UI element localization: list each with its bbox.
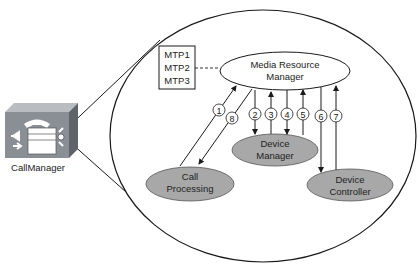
svg-text:5: 5 [300,110,305,120]
device-controller-label-line1: Device [335,174,364,185]
step-badge-6: 6 [315,110,327,122]
mtp3-label: MTP3 [164,75,189,86]
device-controller-label-line2: Controller [329,186,370,197]
svg-text:4: 4 [284,110,289,120]
svg-text:1: 1 [216,106,221,116]
diagram-canvas: CallManager MTP1 MTP2 MTP3 Media Resourc… [0,0,420,265]
callmanager-server-icon [5,103,78,158]
svg-text:7: 7 [333,112,338,122]
device-manager-label-line2: Manager [256,150,294,161]
svg-text:8: 8 [229,114,234,124]
call-processing-label-line1: Call [182,171,198,182]
svg-text:2: 2 [252,110,257,120]
step-badge-5: 5 [297,108,309,120]
step-badge-3: 3 [265,108,277,120]
mtp1-label: MTP1 [164,49,189,60]
device-manager-label-line1: Device [260,138,289,149]
mtp2-label: MTP2 [164,62,189,73]
step-badge-8: 8 [226,112,238,124]
step-badge-7: 7 [330,110,342,122]
callmanager-label: CallManager [11,162,65,173]
step-badge-1: 1 [213,104,225,116]
step-badge-2: 2 [249,108,261,120]
svg-text:6: 6 [318,112,323,122]
mrm-label-line1: Media Resource [250,59,319,70]
svg-text:3: 3 [268,110,273,120]
call-processing-label-line2: Processing [167,183,214,194]
step-badge-4: 4 [281,108,293,120]
mrm-label-line2: Manager [266,71,304,82]
